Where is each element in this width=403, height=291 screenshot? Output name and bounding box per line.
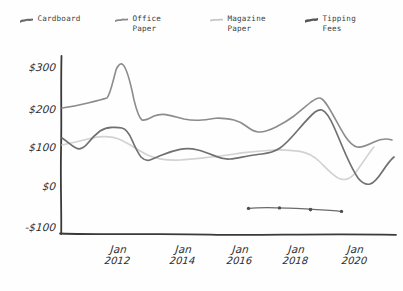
x-axis-line bbox=[60, 234, 396, 235]
series-line-cardboard bbox=[62, 64, 392, 147]
series-line-office-paper bbox=[62, 110, 394, 184]
series-point-tipping-fees bbox=[247, 207, 250, 210]
series-point-tipping-fees bbox=[309, 208, 313, 212]
series-line-tipping-fees bbox=[248, 207, 342, 211]
series-point-tipping-fees bbox=[278, 206, 281, 209]
series-point-tipping-fees bbox=[340, 210, 343, 213]
plot-area bbox=[0, 0, 403, 291]
chart-root: Cardboard Office Paper Magazine Paper bbox=[0, 0, 403, 291]
